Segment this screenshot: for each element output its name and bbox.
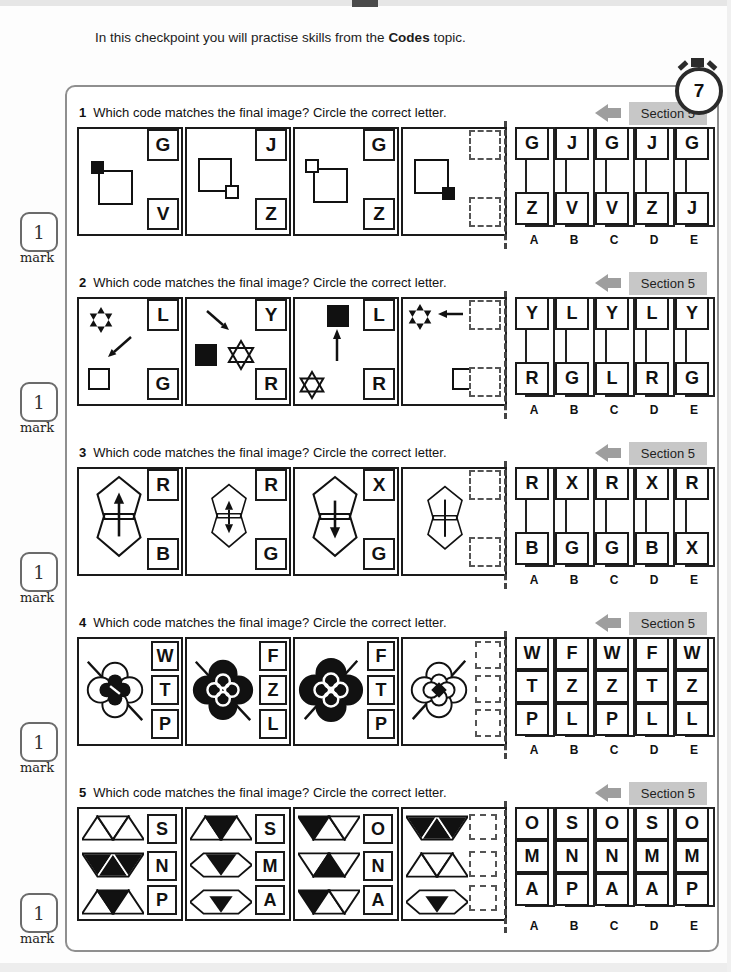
answer-code: L bbox=[635, 297, 669, 330]
final-image bbox=[401, 637, 507, 746]
answer-code: N bbox=[555, 840, 589, 873]
code-letter: S bbox=[255, 814, 285, 844]
answer-code: G bbox=[595, 532, 629, 565]
answer-option-d: SMA bbox=[635, 805, 673, 905]
option-label: E bbox=[675, 919, 713, 933]
intro-text: In this checkpoint you will practise ski… bbox=[95, 30, 466, 45]
triangle-row-trapezoid-down-blackleft bbox=[298, 889, 360, 915]
triangle-row-trapezoid-up-white bbox=[406, 852, 468, 878]
figure-shield-doublearrow-small bbox=[203, 483, 255, 551]
triangle-row-hexagon-blackbottom bbox=[190, 889, 252, 915]
answer-code: X bbox=[635, 467, 669, 500]
question-2-header: 2Which code matches the final image? Cir… bbox=[79, 275, 447, 290]
triangle-row-hexagon-blackbottom bbox=[406, 889, 468, 915]
answer-code: Z bbox=[555, 670, 589, 703]
answer-option-a: WTP bbox=[515, 635, 553, 735]
answer-code: Z bbox=[675, 670, 709, 703]
answer-code: Z bbox=[515, 192, 549, 225]
intro-prefix: In this checkpoint you will practise ski… bbox=[95, 30, 388, 45]
answer-code: L bbox=[675, 703, 709, 736]
question-1-body: G V J Z G Z GZ bbox=[67, 127, 717, 272]
question-text: Which code matches the final image? Circ… bbox=[93, 275, 446, 290]
answer-option-c: GV bbox=[595, 125, 633, 225]
figure-squares-filled-topleft bbox=[83, 147, 147, 211]
code-letter: N bbox=[363, 851, 393, 881]
answer-option-a: RB bbox=[515, 465, 553, 565]
checkpoint-box: 1Which code matches the final image? Cir… bbox=[65, 85, 719, 952]
answer-option-e: OMP bbox=[675, 805, 713, 905]
answer-option-c: ONA bbox=[595, 805, 633, 905]
question-5: 5Which code matches the final image? Cir… bbox=[67, 785, 717, 955]
section-badge: Section 5 bbox=[629, 442, 707, 465]
answer-code: Y bbox=[515, 297, 549, 330]
triangle-row-trapezoid-down-black bbox=[82, 852, 144, 878]
worksheet-page: In this checkpoint you will practise ski… bbox=[0, 0, 731, 972]
answer-option-e: YG bbox=[675, 295, 713, 395]
answer-code: G bbox=[515, 127, 549, 160]
answer-code: R bbox=[515, 362, 549, 395]
answer-code: N bbox=[595, 840, 629, 873]
answer-code: P bbox=[675, 873, 709, 906]
mark-box: 1 bbox=[20, 893, 58, 933]
code-letter: J bbox=[255, 129, 287, 161]
option-label: A bbox=[515, 919, 553, 933]
mark-box: 1 bbox=[20, 722, 58, 762]
dashed-divider bbox=[504, 121, 507, 249]
figure-shield-downarrow-large bbox=[301, 475, 369, 561]
triangle-row-trapezoid-down-black bbox=[406, 815, 468, 841]
section-arrow-icon bbox=[595, 444, 621, 462]
question-number: 1 bbox=[79, 105, 86, 120]
answer-code: P bbox=[595, 703, 629, 736]
intro-suffix: topic. bbox=[430, 30, 466, 45]
code-letter: G bbox=[363, 538, 395, 570]
answer-option-b: FZL bbox=[555, 635, 593, 735]
triangle-row-trapezoid-down-blackmid bbox=[298, 852, 360, 878]
empty-code-box bbox=[469, 367, 501, 397]
option-label: A bbox=[515, 403, 553, 417]
code-image-3: G Z bbox=[293, 127, 399, 236]
answer-code: O bbox=[515, 807, 549, 840]
empty-code-box bbox=[469, 470, 501, 500]
code-letter: X bbox=[363, 469, 395, 501]
question-5-header: 5Which code matches the final image? Cir… bbox=[79, 785, 447, 800]
figure-squares-filled-bottomright bbox=[407, 147, 471, 211]
question-text: Which code matches the final image? Circ… bbox=[93, 785, 446, 800]
code-letter: F bbox=[259, 641, 287, 671]
mark-label: mark bbox=[14, 250, 60, 265]
answer-option-a: GZ bbox=[515, 125, 553, 225]
answer-code: S bbox=[555, 807, 589, 840]
answer-code: B bbox=[515, 532, 549, 565]
section-arrow-icon bbox=[595, 274, 621, 292]
figure-squares-outline-topleft bbox=[299, 147, 363, 211]
answer-option-a: YR bbox=[515, 295, 553, 395]
empty-code-box bbox=[469, 537, 501, 567]
answer-code: S bbox=[635, 807, 669, 840]
empty-code-box bbox=[475, 675, 501, 703]
answer-option-d: JZ bbox=[635, 125, 673, 225]
question-3: 3Which code matches the final image? Cir… bbox=[67, 445, 717, 615]
figure-shield-uparrow-large bbox=[85, 475, 153, 561]
answer-code: G bbox=[555, 532, 589, 565]
code-image-2: Y R bbox=[185, 297, 291, 406]
code-letter: F bbox=[367, 641, 395, 671]
option-label: A bbox=[515, 743, 553, 757]
triangle-row-trapezoid-down-blackleft bbox=[298, 815, 360, 841]
answer-code: T bbox=[515, 670, 549, 703]
code-letter: L bbox=[147, 299, 179, 331]
answer-code: F bbox=[555, 637, 589, 670]
answer-code: X bbox=[555, 467, 589, 500]
code-letter: S bbox=[147, 814, 177, 844]
option-label: C bbox=[595, 919, 633, 933]
code-image-1: L G bbox=[77, 297, 183, 406]
section-arrow-icon bbox=[595, 104, 621, 122]
answer-code: W bbox=[675, 637, 709, 670]
code-letter: G bbox=[147, 368, 179, 400]
code-letter: Y bbox=[255, 299, 287, 331]
empty-code-box bbox=[475, 641, 501, 669]
code-image-1: W T P bbox=[77, 637, 183, 746]
mark-box: 1 bbox=[20, 212, 58, 252]
answer-code: M bbox=[675, 840, 709, 873]
answer-code: R bbox=[515, 467, 549, 500]
answer-code: L bbox=[635, 703, 669, 736]
intro-topic-name: Codes bbox=[388, 30, 429, 45]
